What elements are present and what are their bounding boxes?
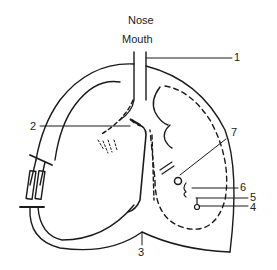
label-mouth: Mouth: [122, 34, 153, 45]
connector-top: [30, 155, 52, 165]
bronchus-left: [131, 120, 140, 125]
outer-right-arc: [146, 66, 234, 252]
callout-1: 1: [234, 52, 240, 63]
callout-2: 2: [30, 121, 36, 132]
left-lung-wall: [128, 125, 146, 212]
callout-7: 7: [231, 127, 237, 138]
callout-4: 4: [250, 202, 256, 213]
callout-6: 6: [240, 182, 246, 193]
tube-segment-left: [26, 171, 36, 200]
right-lung-dashed: [150, 86, 227, 229]
trachea-left: [120, 52, 134, 120]
callout-3: 3: [138, 247, 144, 258]
inner-right-curve: [153, 87, 168, 125]
outer-left-arc: [36, 64, 134, 160]
left-lung-dashed: [100, 100, 133, 135]
small-right-curve: [164, 125, 172, 148]
label-nose: Nose: [128, 15, 154, 26]
leader-7: [180, 139, 226, 175]
